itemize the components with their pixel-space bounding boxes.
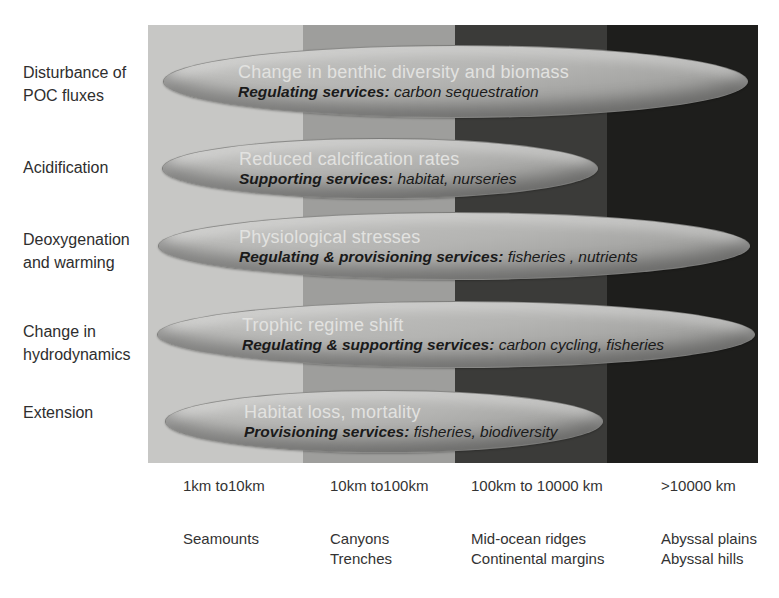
impact-ellipse-benthic-diversity: Change in benthic diversity and biomass … xyxy=(163,45,748,118)
feature-line: Canyons xyxy=(330,529,392,549)
row-label-disturbance-of-poc-fluxes: Disturbance of POC fluxes xyxy=(23,61,148,107)
row-label-line: Extension xyxy=(23,401,148,424)
scale-label-100km-10000km: 100km to 10000 km xyxy=(471,477,603,494)
feature-label-ridges-margins: Mid-ocean ridges Continental margins xyxy=(471,529,604,569)
service-category: Provisioning services: xyxy=(244,423,409,440)
service-items: carbon cycling, fisheries xyxy=(494,336,664,353)
impact-title: Reduced calcification rates xyxy=(239,149,597,169)
service-items: fisheries , nutrients xyxy=(503,248,637,265)
row-label-line: Acidification xyxy=(23,156,148,179)
row-label-line: and warming xyxy=(23,251,148,274)
impact-ellipse-habitat-loss: Habitat loss, mortality Provisioning ser… xyxy=(165,390,603,453)
service-items: habitat, nurseries xyxy=(393,170,516,187)
feature-label-canyons-trenches: Canyons Trenches xyxy=(330,529,392,569)
service-category: Regulating & supporting services: xyxy=(242,336,494,353)
feature-label-abyssal: Abyssal plains Abyssal hills xyxy=(661,529,757,569)
impact-ellipse-trophic-regime-shift: Trophic regime shift Regulating & suppor… xyxy=(157,301,755,368)
impact-title: Trophic regime shift xyxy=(242,315,754,335)
feature-line: Abyssal plains xyxy=(661,529,757,549)
service-text: Supporting services: habitat, nurseries xyxy=(239,169,597,188)
row-label-line: POC fluxes xyxy=(23,84,148,107)
service-text: Regulating & provisioning services: fish… xyxy=(239,247,749,266)
impact-ellipse-physiological-stresses: Physiological stresses Regulating & prov… xyxy=(158,212,750,280)
service-items: fisheries, biodiversity xyxy=(409,423,557,440)
service-text: Regulating & supporting services: carbon… xyxy=(242,335,754,354)
row-label-line: Deoxygenation xyxy=(23,228,148,251)
feature-line: Continental margins xyxy=(471,549,604,569)
feature-line: Trenches xyxy=(330,549,392,569)
row-label-extension: Extension xyxy=(23,401,148,424)
service-text: Regulating services: carbon sequestratio… xyxy=(238,82,747,101)
deep-sea-impacts-diagram: Disturbance of POC fluxes Acidification … xyxy=(0,0,779,598)
row-label-change-in-hydrodynamics: Change in hydrodynamics xyxy=(23,320,148,366)
service-category: Regulating services: xyxy=(238,83,390,100)
row-label-line: Change in xyxy=(23,320,148,343)
feature-line: Seamounts xyxy=(183,529,259,549)
row-label-line: hydrodynamics xyxy=(23,343,148,366)
feature-line: Mid-ocean ridges xyxy=(471,529,604,549)
service-text: Provisioning services: fisheries, biodiv… xyxy=(244,422,602,441)
feature-label-seamounts: Seamounts xyxy=(183,529,259,549)
impact-ellipse-calcification: Reduced calcification rates Supporting s… xyxy=(162,138,598,199)
row-label-acidification: Acidification xyxy=(23,156,148,179)
feature-line: Abyssal hills xyxy=(661,549,757,569)
impact-title: Habitat loss, mortality xyxy=(244,402,602,422)
service-category: Supporting services: xyxy=(239,170,393,187)
scale-label-10km-100km: 10km to100km xyxy=(330,477,428,494)
impact-title: Physiological stresses xyxy=(239,227,749,247)
scale-label-1km-10km: 1km to10km xyxy=(183,477,265,494)
row-label-line: Disturbance of xyxy=(23,61,148,84)
impact-title: Change in benthic diversity and biomass xyxy=(238,62,747,82)
scale-label-over-10000km: >10000 km xyxy=(661,477,736,494)
service-items: carbon sequestration xyxy=(390,83,539,100)
row-label-deoxygenation-and-warming: Deoxygenation and warming xyxy=(23,228,148,274)
service-category: Regulating & provisioning services: xyxy=(239,248,503,265)
